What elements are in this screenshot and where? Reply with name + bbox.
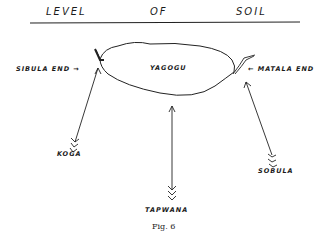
soil-level-line — [30, 22, 300, 23]
sibula-end-label: SIBULA END → — [16, 65, 80, 73]
figure-caption: Fig. 6 — [152, 222, 175, 231]
sobula-label: SOBULA — [258, 167, 294, 175]
tuber-label: YAGOGU — [150, 64, 187, 72]
koga-arrow — [70, 68, 101, 152]
sobula-arrow — [244, 82, 277, 167]
tapwana-arrow — [168, 106, 176, 200]
tapwana-label: TAPWANA — [145, 206, 188, 214]
matala-end-label: ← MATALA END — [248, 65, 314, 73]
koga-label: KOGA — [57, 150, 82, 158]
